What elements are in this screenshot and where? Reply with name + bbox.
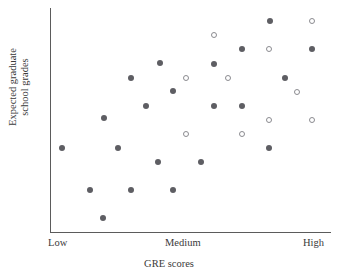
data-point-open (309, 18, 315, 24)
data-point-filled (266, 145, 272, 151)
data-point-filled (100, 215, 106, 221)
data-point-filled (282, 75, 288, 81)
data-point-filled (309, 46, 315, 52)
x-tick-label-medium: Medium (165, 236, 201, 249)
data-point-filled (87, 187, 93, 193)
data-point-filled (239, 103, 245, 109)
data-point-filled (198, 159, 204, 165)
data-point-filled (115, 145, 121, 151)
data-point-open (266, 46, 272, 52)
plot-area (0, 0, 338, 233)
scatter-plot-figure: Low Medium High GRE scores Expected grad… (0, 0, 338, 278)
x-tick-label-high: High (303, 236, 324, 249)
y-axis-title: Expected graduate school grades (7, 24, 31, 150)
data-point-filled (155, 159, 161, 165)
y-axis-title-line-1: Expected graduate (7, 24, 19, 150)
data-point-open (183, 131, 189, 137)
data-point-filled (101, 115, 107, 121)
data-point-filled (157, 60, 163, 66)
data-point-open (183, 75, 189, 81)
data-point-filled (267, 18, 273, 24)
data-point-open (294, 89, 300, 95)
data-point-open (309, 117, 315, 123)
data-point-filled (143, 103, 149, 109)
data-point-open (239, 131, 245, 137)
data-point-open (225, 75, 231, 81)
data-point-filled (128, 187, 134, 193)
data-point-filled (211, 61, 217, 67)
data-point-filled (239, 46, 245, 52)
data-point-filled (128, 75, 134, 81)
x-tick-label-low: Low (48, 236, 67, 249)
data-point-filled (59, 145, 65, 151)
data-point-open (211, 32, 217, 38)
data-point-filled (211, 103, 217, 109)
data-point-filled (170, 88, 176, 94)
data-point-filled (170, 187, 176, 193)
data-point-open (266, 117, 272, 123)
y-axis-title-line-2: school grades (19, 24, 31, 150)
x-axis-title: GRE scores (0, 257, 338, 270)
